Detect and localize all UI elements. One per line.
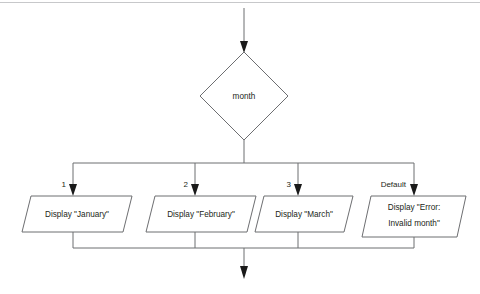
process-label-2: Display "February" <box>167 210 235 219</box>
month-decision-label: month <box>233 92 256 101</box>
process-label-3: Display "March" <box>275 210 333 219</box>
process-node-2[interactable]: Display "February" <box>146 196 256 232</box>
process-node-default[interactable]: Display "Error: Invalid month" <box>362 196 466 237</box>
flowchart-canvas: month 1 2 3 Default <box>0 0 480 294</box>
process-label-1: Display "January" <box>45 210 109 219</box>
branch-case-label-1: 1 <box>62 180 67 189</box>
process-node-3[interactable]: Display "March" <box>255 196 353 232</box>
process-node-1[interactable]: Display "January" <box>22 196 132 232</box>
exit-arrow <box>240 248 248 279</box>
process-label-default-line2: Invalid month" <box>388 219 440 228</box>
flowchart-diagram: month 1 2 3 Default <box>0 0 480 294</box>
entry-arrow <box>240 8 248 53</box>
process-label-default-line1: Display "Error: <box>388 203 441 212</box>
branch-connector-1 <box>69 163 77 196</box>
month-decision-node[interactable]: month <box>200 52 288 140</box>
branch-case-label-3: 3 <box>287 180 292 189</box>
branch-case-label-default: Default <box>381 180 407 189</box>
branch-connector-2 <box>191 163 199 196</box>
parallelogram-shape-default <box>362 196 466 237</box>
branch-case-label-2: 2 <box>184 180 189 189</box>
branch-connector-default <box>410 163 418 196</box>
branch-connector-3 <box>294 163 302 196</box>
